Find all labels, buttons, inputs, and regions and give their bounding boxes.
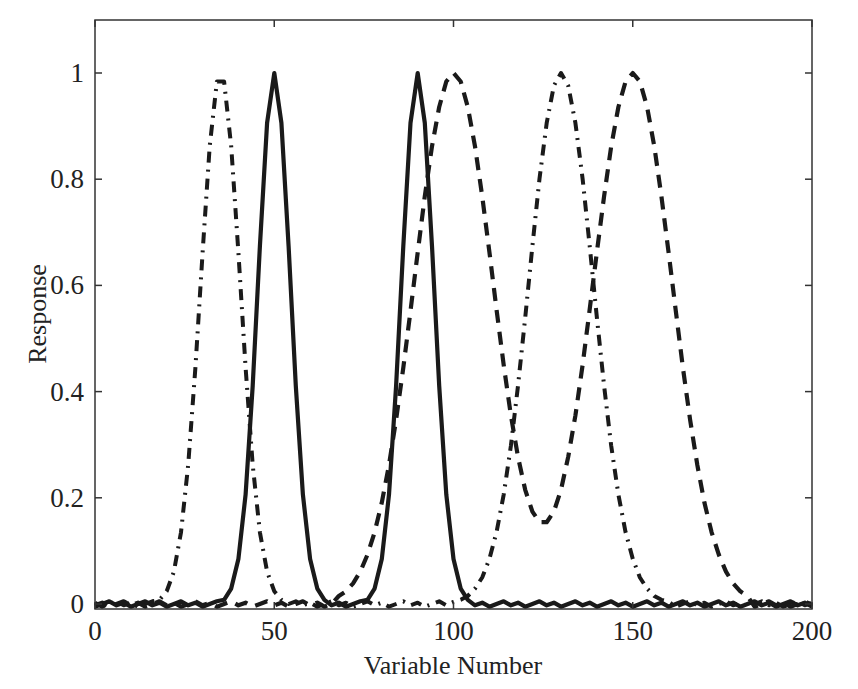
y-tick-label: 1 — [71, 58, 85, 88]
y-tick-label: 0.8 — [50, 164, 84, 194]
x-axis-title: Variable Number — [364, 651, 543, 680]
y-tick-label: 0.6 — [50, 270, 84, 300]
line-chart: 05010015020000.20.40.60.81 Variable Numb… — [0, 0, 858, 689]
x-tick-label: 50 — [261, 616, 288, 646]
x-tick-label: 200 — [792, 616, 833, 646]
y-tick-label: 0.4 — [50, 377, 84, 407]
x-tick-label: 100 — [433, 616, 474, 646]
x-tick-label: 0 — [88, 616, 102, 646]
y-tick-label: 0.2 — [50, 483, 84, 513]
y-tick-label: 0 — [71, 589, 85, 619]
chart-background — [0, 0, 858, 689]
x-tick-label: 150 — [613, 616, 654, 646]
y-axis-title: Response — [23, 264, 52, 364]
